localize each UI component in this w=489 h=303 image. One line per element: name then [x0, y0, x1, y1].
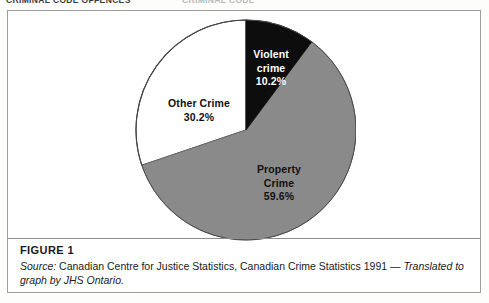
pie-chart-plot-area: Violent crime 10.2% Other Crime 30.2% Pr… [8, 11, 482, 233]
pie-label-property-crime-line1: Property [237, 163, 321, 177]
figure-source-line: Source: Canadian Centre for Justice Stat… [20, 259, 472, 287]
pie-label-property-crime-value: 59.6% [237, 190, 321, 204]
figure-source-prefix: Source: [20, 260, 56, 272]
figure-page: CRIMINAL CODE OFFENCES CRIMINAL CODE Vio… [0, 0, 489, 303]
figure-box: Violent crime 10.2% Other Crime 30.2% Pr… [7, 10, 481, 293]
figure-source-body: Canadian Centre for Justice Statistics, … [59, 260, 387, 272]
figure-caption: FIGURE 1 Source: Canadian Centre for Jus… [20, 244, 472, 287]
running-header-left: CRIMINAL CODE OFFENCES [6, 0, 131, 5]
figure-number-label: FIGURE 1 [20, 244, 472, 256]
pie-label-violent-crime-line1: Violent [236, 48, 306, 62]
figure-source-dash: — [390, 260, 401, 272]
pie-label-property-crime: Property Crime 59.6% [237, 163, 321, 204]
pie-label-other-crime-line1: Other Crime [147, 97, 251, 111]
running-header-right: CRIMINAL CODE [182, 0, 255, 5]
pie-label-violent-crime: Violent crime 10.2% [236, 48, 306, 89]
pie-label-violent-crime-value: 10.2% [236, 75, 306, 89]
pie-label-other-crime-value: 30.2% [147, 111, 251, 125]
caption-divider [8, 238, 480, 239]
pie-label-other-crime: Other Crime 30.2% [147, 97, 251, 124]
pie-label-property-crime-line2: Crime [237, 177, 321, 191]
pie-label-violent-crime-line2: crime [236, 62, 306, 76]
running-header: CRIMINAL CODE OFFENCES CRIMINAL CODE [6, 0, 476, 8]
